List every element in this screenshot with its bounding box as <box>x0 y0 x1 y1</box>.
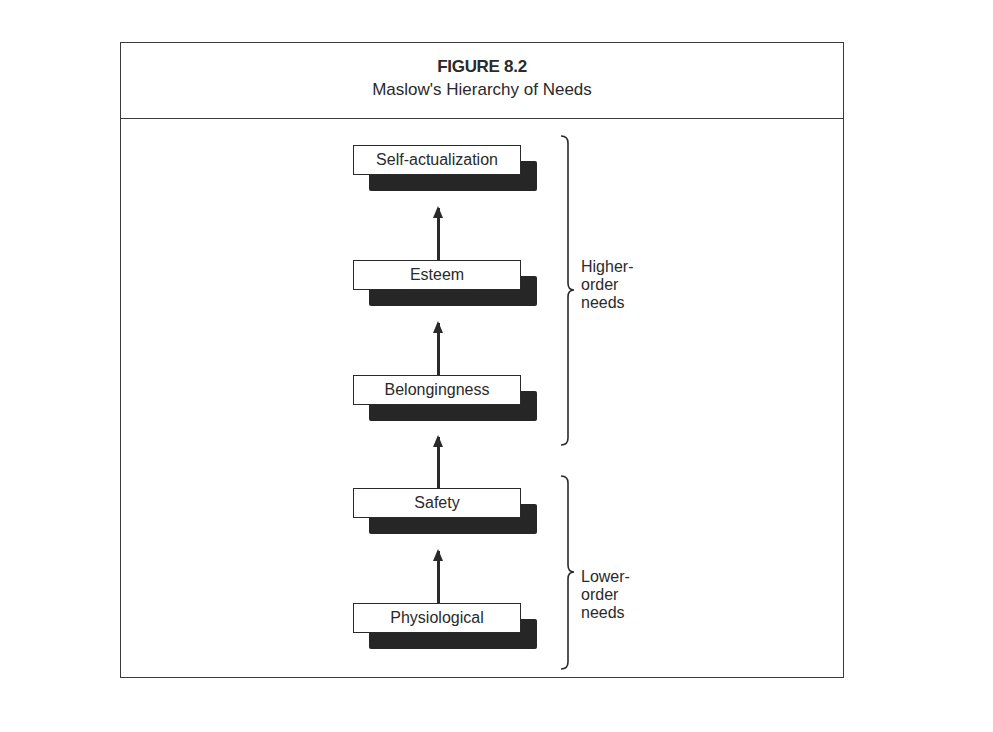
arrow-up-icon <box>437 551 440 603</box>
node-belongingness: Belongingness <box>353 375 521 405</box>
node-label: Esteem <box>353 260 521 290</box>
node-self-actualization: Self-actualization <box>353 145 521 175</box>
figure-frame: FIGURE 8.2 Maslow's Hierarchy of Needs <box>120 42 844 678</box>
arrow-up-icon <box>437 437 440 488</box>
brace-higher-icon <box>560 135 576 447</box>
label-line: Higher- <box>581 258 633 276</box>
node-physiological: Physiological <box>353 603 521 633</box>
label-line: Lower- <box>581 568 630 586</box>
brace-lower-icon <box>560 475 576 671</box>
node-label: Physiological <box>353 603 521 633</box>
group-label-lower-order: Lower- order needs <box>581 568 630 622</box>
node-label: Safety <box>353 488 521 518</box>
arrow-up-icon <box>437 323 440 375</box>
label-line: order <box>581 586 630 604</box>
node-safety: Safety <box>353 488 521 518</box>
arrow-up-icon <box>437 208 440 260</box>
node-esteem: Esteem <box>353 260 521 290</box>
figure-number: FIGURE 8.2 <box>121 57 843 77</box>
figure-title: Maslow's Hierarchy of Needs <box>121 80 843 100</box>
label-line: order <box>581 276 633 294</box>
figure-header: FIGURE 8.2 Maslow's Hierarchy of Needs <box>121 43 843 119</box>
node-label: Self-actualization <box>353 145 521 175</box>
label-line: needs <box>581 604 630 622</box>
group-label-higher-order: Higher- order needs <box>581 258 633 312</box>
label-line: needs <box>581 294 633 312</box>
node-label: Belongingness <box>353 375 521 405</box>
